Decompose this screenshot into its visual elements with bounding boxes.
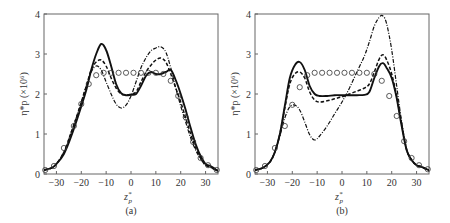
series-line-dashed: [44, 58, 218, 171]
data-marker-circle: [364, 70, 369, 75]
series-line-solid: [44, 44, 218, 171]
panel-label: (b): [336, 205, 348, 217]
data-marker-circle: [379, 78, 384, 83]
data-marker-circle: [101, 70, 106, 75]
x-tick-label: 20: [387, 177, 397, 188]
data-marker-circle: [282, 123, 287, 128]
x-tick-label: −30: [260, 177, 276, 188]
y-tick-label: 4: [246, 9, 251, 20]
x-tick-label: 10: [362, 177, 372, 188]
y-tick-label: 3: [35, 49, 40, 60]
panel-b-chart: −30−20−10010203001234z*p(b)η*p (×10⁶): [229, 9, 430, 218]
panel-label: (a): [125, 205, 136, 217]
series-line-dash-dot: [44, 47, 218, 171]
data-marker-circle: [131, 70, 136, 75]
x-tick-label: 30: [201, 177, 211, 188]
plot-frame: [255, 14, 429, 174]
y-tick-label: 3: [246, 49, 251, 60]
series-line-solid: [255, 62, 429, 170]
y-tick-label: 0: [35, 169, 40, 180]
y-axis-label: η*p (×10⁶): [18, 72, 30, 116]
data-marker-circle: [357, 70, 362, 75]
data-marker-circle: [320, 70, 325, 75]
x-tick-label: 0: [340, 177, 345, 188]
data-marker-circle: [312, 70, 317, 75]
y-tick-label: 2: [246, 89, 251, 100]
data-marker-circle: [94, 73, 99, 78]
y-tick-label: 1: [246, 129, 251, 140]
y-tick-label: 0: [246, 169, 251, 180]
x-tick-label: −30: [49, 177, 65, 188]
data-marker-circle: [387, 93, 392, 98]
x-axis-label: z*p: [123, 190, 132, 205]
x-tick-label: −20: [73, 177, 89, 188]
figure: −30−20−10010203001234z*p(a)η*p (×10⁶) −3…: [0, 0, 450, 223]
y-axis-label: η*p (×10⁶): [229, 72, 241, 116]
x-tick-label: 20: [176, 177, 186, 188]
y-tick-label: 4: [35, 9, 40, 20]
panel-a-chart: −30−20−10010203001234z*p(a)η*p (×10⁶): [18, 9, 219, 218]
data-marker-circle: [116, 70, 121, 75]
x-tick-label: −10: [98, 177, 114, 188]
x-tick-label: 10: [151, 177, 161, 188]
data-marker-circle: [394, 113, 399, 118]
y-tick-label: 1: [35, 129, 40, 140]
x-tick-label: −10: [309, 177, 325, 188]
data-marker-circle: [123, 70, 128, 75]
y-tick-label: 2: [35, 89, 40, 100]
data-marker-circle: [297, 85, 302, 90]
x-tick-label: 0: [129, 177, 134, 188]
series-line-dash-dot: [255, 15, 429, 170]
data-marker-circle: [334, 70, 339, 75]
data-marker-circle: [349, 70, 354, 75]
data-marker-circle: [327, 70, 332, 75]
x-tick-label: 30: [412, 177, 422, 188]
x-tick-label: −20: [284, 177, 300, 188]
x-axis-label: z*p: [334, 190, 343, 205]
data-marker-circle: [342, 70, 347, 75]
